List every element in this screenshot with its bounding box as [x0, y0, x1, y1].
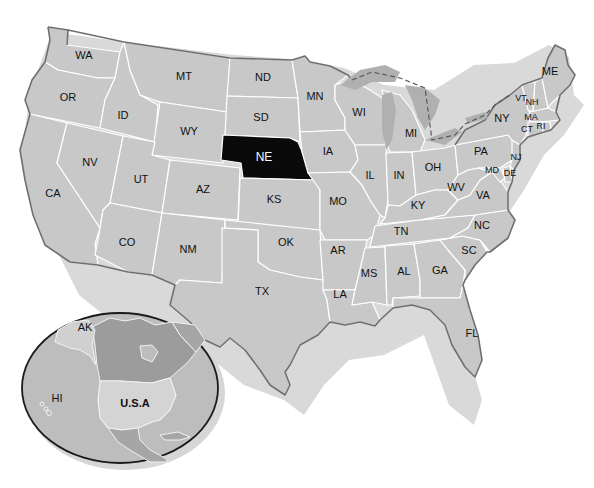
label-tx: TX	[255, 285, 270, 297]
label-me: ME	[542, 65, 559, 77]
label-nc: NC	[474, 219, 490, 231]
label-nv: NV	[82, 156, 98, 168]
label-wy: WY	[180, 125, 198, 137]
inset-globe: AK HI U.S.A	[22, 313, 225, 470]
label-oh: OH	[425, 161, 442, 173]
label-ar: AR	[330, 244, 345, 256]
label-ny: NY	[494, 112, 510, 124]
label-mi: MI	[405, 127, 417, 139]
us-map: WA OR CA ID NV MT WY UT AZ CO NM ND SD N…	[0, 0, 594, 488]
label-de: DE	[504, 168, 517, 178]
label-wv: WV	[447, 181, 465, 193]
label-usa: U.S.A	[120, 397, 149, 409]
label-il: IL	[365, 169, 374, 181]
label-or: OR	[60, 91, 77, 103]
label-ky: KY	[411, 199, 426, 211]
label-ne: NE	[256, 150, 273, 164]
label-nm: NM	[179, 243, 196, 255]
label-hi: HI	[52, 392, 63, 404]
label-wa: WA	[75, 49, 93, 61]
label-ga: GA	[432, 264, 449, 276]
label-sc: SC	[461, 244, 476, 256]
label-ma: MA	[524, 112, 538, 122]
label-ut: UT	[134, 173, 149, 185]
label-mo: MO	[329, 195, 347, 207]
label-mt: MT	[176, 70, 192, 82]
label-ri: RI	[537, 121, 546, 131]
label-la: LA	[333, 288, 347, 300]
label-tn: TN	[394, 225, 409, 237]
label-ca: CA	[45, 187, 61, 199]
label-va: VA	[476, 189, 491, 201]
label-in: IN	[394, 169, 405, 181]
label-ms: MS	[361, 267, 378, 279]
label-ks: KS	[267, 193, 282, 205]
label-ak: AK	[78, 321, 93, 333]
label-md: MD	[485, 165, 499, 175]
label-mn: MN	[306, 90, 323, 102]
label-ia: IA	[323, 145, 334, 157]
label-ct: CT	[521, 124, 533, 134]
label-nj: NJ	[511, 152, 522, 162]
label-az: CO	[119, 236, 136, 248]
label-co: AZ	[196, 183, 210, 195]
label-fl: FL	[466, 327, 479, 339]
label-nh: NH	[526, 97, 539, 107]
label-nd: ND	[255, 71, 271, 83]
label-id: ID	[118, 109, 129, 121]
label-pa: PA	[474, 145, 489, 157]
label-al: AL	[397, 265, 410, 277]
label-ok: OK	[278, 236, 295, 248]
label-sd: SD	[253, 111, 268, 123]
label-wi: WI	[352, 106, 365, 118]
